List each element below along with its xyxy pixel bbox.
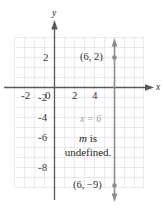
y-axis-label: y [52,9,56,19]
graph-figure: y x 2 -2 -4 -6 -8 -2 0 2 4 (6, 2) (6, −9… [0,0,165,208]
x-tick-2: 2 [72,90,78,101]
point-6-neg9 [112,183,117,188]
x-axis-label: x [156,83,160,93]
y-axis [51,20,57,200]
x-tick-4: 4 [92,90,98,101]
x-tick-neg2: -2 [21,90,30,101]
slope-annotation-line2: undefined. [52,147,124,158]
slope-annotation-line1: m is [52,133,124,144]
point-label-6-neg9: (6, −9) [73,180,102,191]
point-6-2 [112,55,117,60]
slope-verb: is [87,132,97,144]
equation-annotation: x = 6 [80,114,101,124]
y-tick-neg4: -4 [38,112,47,123]
x-tick-0: 0 [45,90,51,101]
slope-variable: m [79,132,87,144]
grid-lines [14,37,144,188]
y-tick-neg8: -8 [38,162,47,173]
y-tick-neg6: -6 [38,132,47,143]
slope-annotation: m is undefined. [52,133,124,158]
point-label-6-2: (6, 2) [80,52,103,63]
y-tick-2: 2 [43,52,49,63]
coordinate-plane [0,0,165,208]
